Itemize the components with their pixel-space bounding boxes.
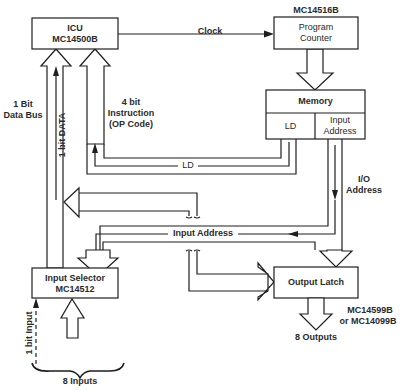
input-address-label: Input Address	[168, 228, 238, 239]
input-selector-title: Input Selector	[32, 273, 118, 284]
inputs-arrow	[61, 299, 84, 338]
one-bit-input-label: 1 bit Input	[24, 303, 35, 363]
icu-part: MC14500B	[32, 34, 118, 45]
to-latch-arrowhead-icon	[258, 263, 274, 300]
output-latch-part-line2: or MC14099B	[333, 316, 403, 327]
clock-arrowhead-icon	[264, 31, 274, 38]
feedback-lower-line	[79, 211, 189, 216]
jump-mark-2	[194, 217, 200, 218]
to-latch-lower-line	[189, 251, 268, 291]
memory-title: Memory	[266, 96, 365, 107]
data-bus-label-line1: 1 Bit	[0, 99, 46, 110]
input-selector-part: MC14512	[32, 284, 118, 295]
output-latch-part-line1: MC14599B	[340, 305, 400, 316]
one-bit-data-label: 1 bit DATA	[57, 105, 68, 165]
program-counter-line1: Program	[274, 22, 358, 33]
instruction-label-line3: (OP Code)	[104, 119, 158, 130]
io-address-label-line2: Address	[342, 185, 386, 196]
input-address-inner-line	[103, 242, 315, 250]
outputs-arrow	[300, 298, 332, 330]
feedback-arrowhead-icon	[64, 188, 79, 217]
input-address-left-arrowhead-icon	[288, 231, 298, 237]
eight-inputs-label: 8 Inputs	[50, 376, 110, 387]
data-bus-label-line2: Data Bus	[0, 110, 46, 121]
program-counter-line2: Counter	[274, 33, 358, 44]
jump-mark-4	[194, 250, 200, 251]
eight-outputs-label: 8 Outputs	[286, 332, 346, 343]
jump-mark-1	[186, 217, 192, 218]
memory-input-cell-line1: Input	[315, 115, 365, 126]
to-latch-upper-line	[197, 251, 268, 274]
output-latch-title: Output Latch	[274, 277, 358, 288]
icu-title: ICU	[32, 23, 118, 34]
pc-to-memory-arrow	[297, 49, 333, 90]
clock-label: Clock	[180, 26, 240, 37]
memory-ld-cell: LD	[266, 121, 315, 132]
io-address-arrowhead-icon	[332, 190, 338, 200]
io-address-label-line1: I/O	[344, 174, 384, 185]
program-counter-part: MC14516B	[274, 5, 358, 16]
ld-label: LD	[178, 160, 198, 171]
instruction-label-line1: 4 bit	[106, 97, 156, 108]
feedback-upper-line	[79, 193, 197, 216]
jump-mark-3	[186, 250, 192, 251]
instruction-label-line2: Instruction	[104, 108, 158, 119]
memory-input-cell-line2: Address	[315, 126, 365, 137]
address-to-latch-arrow	[320, 250, 352, 267]
